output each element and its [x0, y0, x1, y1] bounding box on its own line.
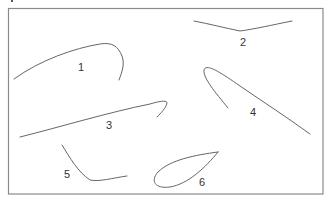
diagram-svg: 1 2 3 4 5 6 [0, 0, 330, 201]
curve-label-6: 6 [199, 176, 205, 188]
curve-label-5: 5 [64, 168, 70, 180]
curve-label-1: 1 [78, 61, 84, 73]
curve-label-2: 2 [240, 36, 246, 48]
curve-label-3: 3 [106, 119, 112, 131]
curve-label-4: 4 [250, 106, 256, 118]
top-mark [11, 0, 13, 2]
diagram-canvas: 1 2 3 4 5 6 [0, 0, 330, 201]
